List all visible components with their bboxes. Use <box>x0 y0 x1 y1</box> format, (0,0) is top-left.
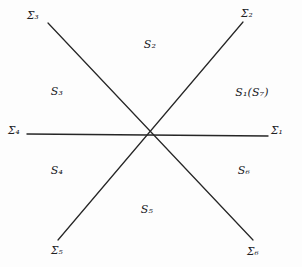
region-label-s2: S₂ <box>144 39 156 50</box>
axis-label-sigma-1: Σ₁ <box>271 125 283 136</box>
region-label-s4: S₄ <box>51 165 63 176</box>
region-label-s6: S₆ <box>238 165 250 176</box>
region-label-s1-s7: S₁(S₇) <box>235 87 269 98</box>
sigma-sector-diagram: Σ₁ Σ₂ Σ₃ Σ₄ Σ₅ Σ₆ S₁(S₇) S₂ S₃ S₄ S₅ S₆ <box>0 0 302 267</box>
axis-label-sigma-4: Σ₄ <box>8 125 20 136</box>
axis-label-sigma-3: Σ₃ <box>27 10 39 21</box>
axis-label-sigma-5: Σ₅ <box>51 245 63 256</box>
axis-label-sigma-2: Σ₂ <box>241 8 253 19</box>
axis-label-sigma-6: Σ₆ <box>247 246 259 257</box>
region-label-s5: S₅ <box>141 204 153 215</box>
region-label-s3: S₃ <box>51 86 63 97</box>
